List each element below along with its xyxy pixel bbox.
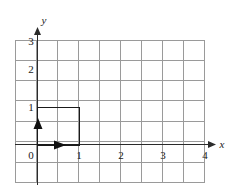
x-tick-label: 2 (118, 149, 124, 161)
y-axis-tick-labels: 1 2 3 (28, 35, 34, 113)
x-tick-label: 1 (76, 149, 82, 161)
x-axis-label: x (219, 138, 225, 150)
y-tick-label: 3 (28, 35, 34, 47)
coordinate-grid-figure: x y 0 1 2 3 4 1 2 3 (0, 0, 232, 196)
y-tick-label: 1 (28, 101, 34, 113)
y-axis-label: y (41, 14, 47, 26)
figure-background (0, 0, 232, 196)
x-tick-label: 4 (202, 149, 208, 161)
y-tick-label: 2 (28, 63, 34, 75)
x-tick-label: 0 (28, 149, 34, 161)
coordinate-plane-svg: x y 0 1 2 3 4 1 2 3 (0, 0, 232, 196)
x-tick-label: 3 (160, 149, 166, 161)
